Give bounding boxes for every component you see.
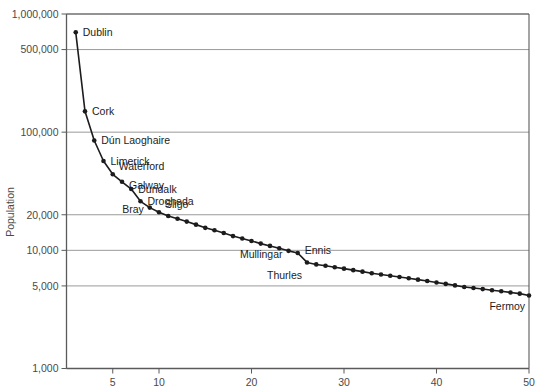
point-label: Mullingar [240, 248, 283, 260]
x-tick-label: 40 [431, 376, 443, 388]
gridlines [67, 14, 530, 369]
y-axis-tick-labels: 1,0005,00010,00020,000100,000500,0001,00… [12, 8, 59, 375]
y-tick-label: 500,000 [21, 43, 59, 55]
data-point [517, 291, 522, 296]
y-tick-label: 10,000 [26, 244, 58, 256]
data-point [527, 293, 532, 298]
data-point [110, 172, 115, 177]
data-point [231, 234, 236, 239]
data-point [462, 285, 467, 290]
point-label: Bray [122, 203, 144, 215]
rank-size-chart: 51020304050 1,0005,00010,00020,000100,00… [0, 0, 545, 389]
point-label: Dún Laoghaire [101, 134, 170, 146]
data-point [83, 109, 88, 114]
data-point [175, 216, 180, 221]
y-tick-label: 20,000 [26, 209, 58, 221]
data-point [416, 277, 421, 282]
y-tick-label: 1,000,000 [12, 8, 59, 20]
data-point [157, 210, 162, 215]
data-point [194, 222, 199, 227]
data-point [184, 219, 189, 224]
point-label: Dundalk [138, 183, 177, 195]
data-point [443, 282, 448, 287]
data-point [166, 214, 171, 219]
data-point [332, 265, 337, 270]
data-point [258, 241, 263, 246]
point-label: Fermoy [489, 300, 525, 312]
y-tick-label: 5,000 [32, 280, 58, 292]
y-axis-title-text: Population [4, 187, 16, 237]
y-axis-title: Population [4, 187, 16, 237]
data-point [406, 276, 411, 281]
y-tick-label: 1,000 [32, 362, 58, 374]
data-point [305, 260, 310, 265]
data-point [379, 272, 384, 277]
data-point [73, 30, 78, 35]
data-point [212, 228, 217, 233]
data-point [360, 269, 365, 274]
data-point [101, 159, 106, 164]
data-point [120, 180, 125, 185]
point-label: Dublin [83, 26, 113, 38]
data-point [314, 262, 319, 267]
point-annotations: DublinCorkDún LaoghaireLimerickWaterford… [83, 26, 526, 313]
data-point [286, 249, 291, 254]
data-point [221, 231, 226, 236]
x-tick-label: 50 [523, 376, 535, 388]
data-point [295, 251, 300, 256]
point-label: Waterford [119, 160, 165, 172]
x-tick-label: 10 [153, 376, 165, 388]
data-point [203, 226, 208, 231]
point-label: Cork [92, 105, 115, 117]
x-tick-label: 5 [110, 376, 116, 388]
data-point [480, 287, 485, 292]
data-point [508, 290, 513, 295]
y-axis-ticks [62, 14, 67, 369]
data-point [240, 236, 245, 241]
data-point [388, 273, 393, 278]
point-label: Sligo [165, 198, 189, 210]
plot-frame [67, 14, 530, 369]
data-point [453, 283, 458, 288]
x-tick-label: 20 [246, 376, 258, 388]
point-label: Ennis [305, 244, 331, 256]
x-axis-ticks [113, 369, 529, 374]
data-point [342, 266, 347, 271]
data-point [434, 280, 439, 285]
data-point [369, 271, 374, 276]
data-point [471, 286, 476, 291]
x-axis-tick-labels: 51020304050 [110, 376, 535, 388]
data-point [92, 138, 97, 143]
data-point [249, 239, 254, 244]
data-point [499, 289, 504, 294]
data-point [425, 279, 430, 284]
data-point [323, 263, 328, 268]
x-tick-label: 30 [338, 376, 350, 388]
data-point [397, 275, 402, 280]
point-label: Thurles [267, 269, 302, 281]
data-point [351, 268, 356, 273]
chart-canvas: 51020304050 1,0005,00010,00020,000100,00… [0, 0, 545, 389]
data-point [490, 288, 495, 293]
y-tick-label: 100,000 [21, 126, 59, 138]
